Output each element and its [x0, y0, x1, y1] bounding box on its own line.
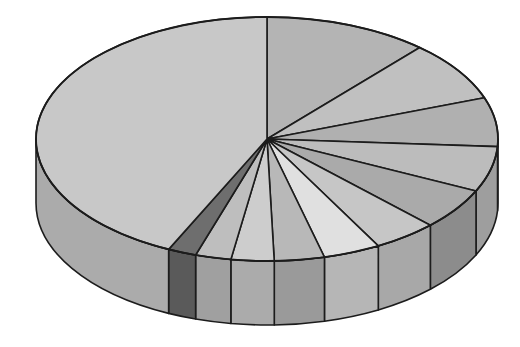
- pie-slice-side-8: [274, 257, 324, 325]
- pie-chart-svg: Slice 1: 11.5%Slice 2: 8%Slice 3: 6.5%Sl…: [0, 0, 520, 347]
- pie-slice-side-9: [231, 260, 274, 326]
- pie-chart-figure: Slice 1: 11.5%Slice 2: 8%Slice 3: 6.5%Sl…: [0, 0, 520, 347]
- pie-slice-side-7: [324, 246, 378, 321]
- pie-slice-side-11: [169, 249, 196, 319]
- pie-slice-side-10: [196, 255, 231, 323]
- pie-top-faces: Slice 1: 11.5%Slice 2: 8%Slice 3: 6.5%Sl…: [36, 17, 498, 261]
